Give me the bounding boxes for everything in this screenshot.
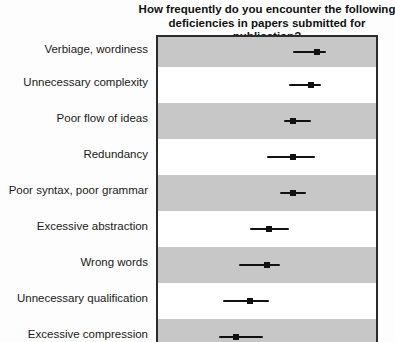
category-label: Wrong words	[0, 256, 148, 268]
category-label: Excessive abstraction	[0, 220, 148, 232]
mean-marker	[290, 118, 296, 124]
error-bar	[284, 120, 310, 122]
category-label: Unnecessary qualification	[0, 292, 148, 304]
error-bar	[293, 51, 326, 53]
category-label: Unnecessary complexity	[0, 76, 148, 88]
mean-marker	[266, 226, 272, 232]
category-label: Verbiage, wordiness	[0, 43, 148, 55]
row-band	[158, 175, 376, 211]
error-bar	[289, 84, 322, 86]
mean-marker	[314, 49, 320, 55]
mean-marker	[290, 190, 296, 196]
row-band	[158, 319, 376, 342]
category-label: Excessive compression	[0, 328, 148, 340]
row-band	[158, 67, 376, 103]
mean-marker	[233, 334, 239, 340]
row-band	[158, 37, 376, 67]
mean-marker	[247, 298, 253, 304]
category-label: Poor flow of ideas	[0, 112, 148, 124]
plot-area	[156, 35, 378, 342]
chart-title-line1: How frequently do you encounter the foll…	[138, 3, 395, 17]
row-band	[158, 103, 376, 139]
category-label: Poor syntax, poor grammar	[0, 184, 148, 196]
category-label: Redundancy	[0, 148, 148, 160]
survey-dot-plot-figure: How frequently do you encounter the foll…	[0, 0, 395, 342]
error-bar	[219, 336, 263, 338]
mean-marker	[264, 262, 270, 268]
mean-marker	[308, 82, 314, 88]
mean-marker	[290, 154, 296, 160]
error-bar	[239, 264, 280, 266]
